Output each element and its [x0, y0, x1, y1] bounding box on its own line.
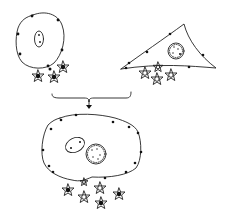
particle-light-icon — [78, 191, 90, 203]
round-cell — [16, 13, 69, 83]
particle-dark-icon — [57, 61, 69, 73]
nucleus-oval — [63, 134, 87, 155]
attached-particles — [62, 178, 125, 209]
fusion-bracket-arrow — [52, 92, 131, 109]
particle-dark-icon — [95, 197, 107, 209]
attached-particles — [32, 61, 69, 83]
particle-light-icon — [94, 182, 106, 194]
nucleus-speckled — [168, 43, 184, 59]
particle-dark-icon — [62, 184, 74, 196]
particle-light-icon — [151, 73, 163, 85]
nucleus-speckled — [86, 144, 106, 164]
particle-dark-icon — [48, 71, 60, 83]
particle-small-icon — [49, 68, 52, 71]
triangular-cell — [121, 24, 216, 85]
particle-dark-icon — [113, 188, 125, 200]
cell-fusion-diagram — [0, 0, 234, 215]
membrane-receptor-dots — [17, 15, 64, 68]
fused-cell — [42, 114, 143, 209]
particle-light-icon — [139, 67, 151, 79]
particle-light-icon — [165, 69, 177, 81]
particle-light-icon — [153, 62, 163, 72]
particle-dark-icon — [32, 70, 44, 82]
diagram-canvas — [0, 0, 234, 215]
nucleus-oval — [35, 31, 44, 47]
